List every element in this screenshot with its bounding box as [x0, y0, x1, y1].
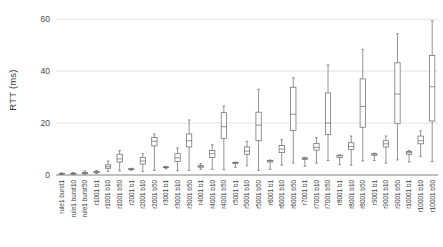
x-tick-label: r7001 b10: [313, 180, 320, 209]
box-rect: [256, 112, 261, 141]
y-tick-label: 40: [41, 66, 51, 76]
x-tick-label: r2001 b50: [151, 180, 158, 209]
box-plot-item: [198, 164, 203, 170]
x-tick-label: r1001 b10: [104, 180, 111, 209]
box-rect: [430, 56, 435, 121]
box-rect: [360, 79, 365, 127]
x-tick-label: r8001 b10: [348, 180, 355, 209]
y-tick-label: 0: [45, 170, 50, 180]
box-rect: [117, 154, 122, 162]
box-plot-item: [186, 120, 191, 170]
box-plot-item: [337, 155, 342, 165]
x-tick-label: r7001 b50: [324, 180, 331, 209]
x-tick-label: rule1 burst10: [70, 180, 77, 218]
box-plot-item: [372, 153, 377, 160]
x-tick-label: r5001 b1: [232, 180, 239, 206]
box-plot-item: [82, 171, 87, 174]
box-plot-chart: RTT (ms) 0204060 rule1 burst1rule1 burst…: [0, 0, 443, 247]
y-tick-label: 20: [41, 118, 51, 128]
x-tick-label: r10001 b50: [429, 180, 436, 213]
x-tick-label: r10001 b10: [417, 180, 424, 213]
y-tick-label: 60: [41, 14, 51, 24]
box-plot-item: [210, 145, 215, 169]
box-plot-item: [279, 140, 284, 165]
box-plot-item: [291, 78, 296, 163]
x-tick-label: r1001 b50: [116, 180, 123, 209]
box-plot-item: [163, 166, 168, 168]
x-tick-label: r1001 b1: [93, 180, 100, 206]
box-plot-item: [314, 138, 319, 163]
x-tick-label: r6001 b1: [267, 180, 274, 206]
x-tick-label: r8001 b50: [359, 180, 366, 209]
x-tick-label: r9001 b50: [394, 180, 401, 209]
box-rect: [221, 113, 226, 139]
boxes-group: [59, 21, 435, 174]
box-plot-item: [360, 49, 365, 161]
box-plot-item: [418, 131, 423, 156]
box-rect: [395, 63, 400, 124]
x-tick-label: r10001 b1: [405, 180, 412, 209]
x-tick-label: r3001 b10: [174, 180, 181, 209]
box-plot-item: [175, 148, 180, 171]
box-plot-item: [221, 106, 226, 170]
box-plot-item: [129, 168, 134, 170]
x-tick-label: r2001 b10: [139, 180, 146, 209]
box-plot-item: [244, 141, 249, 165]
x-tick-label: r6001 b10: [278, 180, 285, 209]
box-plot-item: [267, 160, 272, 169]
box-plot-item: [430, 21, 435, 162]
box-plot-item: [140, 154, 145, 172]
x-tick-label: r8001 b1: [336, 180, 343, 206]
box-plot-item: [406, 151, 411, 162]
x-tick-label: r4001 b50: [220, 180, 227, 209]
x-tick-label: r9001 b10: [382, 180, 389, 209]
box-plot-item: [59, 173, 64, 174]
box-plot-item: [395, 34, 400, 160]
x-tick-label: r6001 b50: [290, 180, 297, 209]
x-tick-label: r4001 b10: [209, 180, 216, 209]
box-plot-item: [105, 161, 110, 171]
gridlines-group: [56, 19, 438, 123]
box-plot-item: [325, 65, 330, 161]
plot-area: 0204060 rule1 burst1rule1 burst10rule1 b…: [0, 0, 443, 247]
box-plot-item: [383, 136, 388, 163]
x-tick-label: r4001 b1: [197, 180, 204, 206]
x-tick-label: r5001 b50: [255, 180, 262, 209]
box-plot-item: [71, 173, 76, 175]
box-plot-item: [152, 134, 157, 170]
box-rect: [152, 138, 157, 146]
box-plot-item: [233, 162, 238, 167]
box-rect: [418, 136, 423, 144]
box-rect: [325, 93, 330, 135]
x-tick-labels-group: rule1 burst1rule1 burst10rule1 burst50r1…: [58, 180, 435, 218]
x-tick-label: r2001 b1: [128, 180, 135, 206]
x-tick-label: r7001 b1: [301, 180, 308, 206]
x-tick-label: r5001 b10: [243, 180, 250, 209]
x-tick-label: rule1 burst50: [81, 180, 88, 218]
box-plot-item: [349, 136, 354, 165]
x-tick-label: r3001 b1: [162, 180, 169, 206]
box-rect: [244, 147, 249, 154]
x-tick-label: r3001 b50: [186, 180, 193, 209]
box-plot-item: [117, 151, 122, 171]
box-plot-item: [94, 170, 99, 173]
box-rect: [291, 87, 296, 130]
box-plot-item: [256, 89, 261, 170]
box-plot-item: [302, 157, 307, 166]
y-tick-labels-group: 0204060: [41, 14, 51, 180]
x-tick-label: rule1 burst1: [58, 180, 65, 214]
box-rect: [314, 143, 319, 150]
x-tick-label: r9001 b1: [371, 180, 378, 206]
